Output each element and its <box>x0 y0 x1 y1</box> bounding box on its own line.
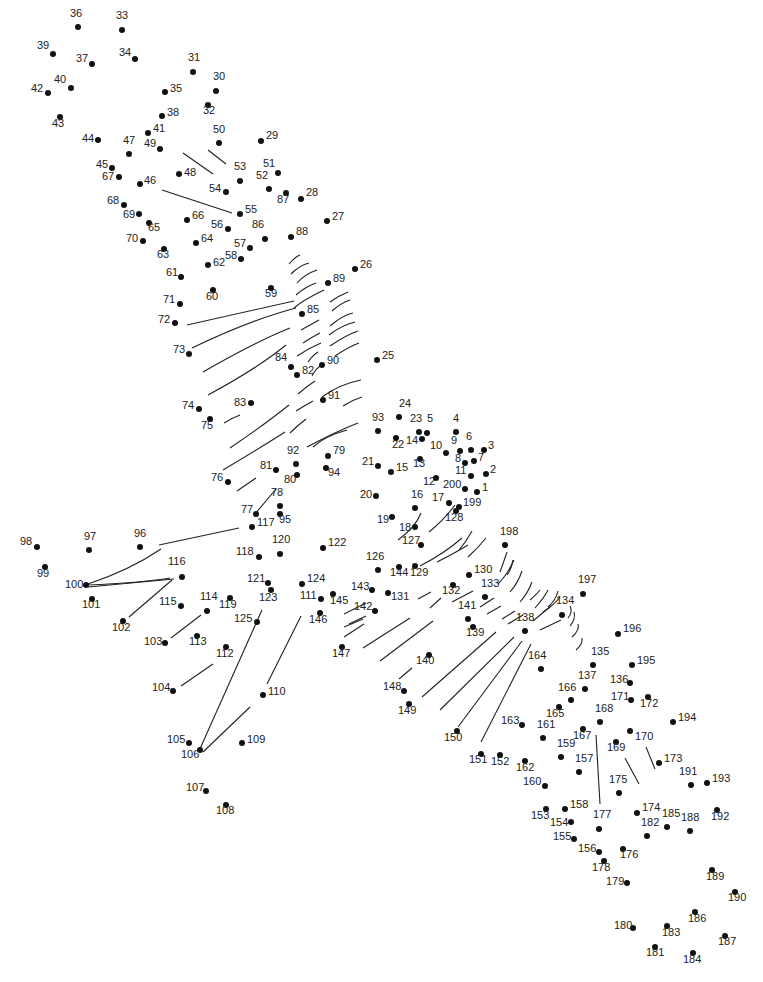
puzzle-dot[interactable] <box>320 545 326 551</box>
puzzle-dot[interactable] <box>627 728 633 734</box>
puzzle-dot[interactable] <box>205 262 211 268</box>
puzzle-dot[interactable] <box>293 461 299 467</box>
puzzle-dot[interactable] <box>457 448 463 454</box>
puzzle-dot[interactable] <box>256 554 262 560</box>
puzzle-dot[interactable] <box>186 740 192 746</box>
puzzle-dot[interactable] <box>482 594 488 600</box>
puzzle-dot[interactable] <box>223 189 229 195</box>
puzzle-dot[interactable] <box>580 591 586 597</box>
puzzle-dot[interactable] <box>519 722 525 728</box>
puzzle-dot[interactable] <box>375 463 381 469</box>
puzzle-dot[interactable] <box>616 790 622 796</box>
puzzle-dot[interactable] <box>89 61 95 67</box>
puzzle-dot[interactable] <box>687 828 693 834</box>
puzzle-dot[interactable] <box>238 256 244 262</box>
puzzle-dot[interactable] <box>157 146 163 152</box>
puzzle-dot[interactable] <box>596 849 602 855</box>
puzzle-dot[interactable] <box>184 217 190 223</box>
puzzle-dot[interactable] <box>615 631 621 637</box>
puzzle-dot[interactable] <box>474 489 480 495</box>
puzzle-dot[interactable] <box>172 320 178 326</box>
puzzle-dot[interactable] <box>86 547 92 553</box>
puzzle-dot[interactable] <box>75 24 81 30</box>
puzzle-dot[interactable] <box>95 137 101 143</box>
puzzle-dot[interactable] <box>162 640 168 646</box>
puzzle-dot[interactable] <box>177 301 183 307</box>
puzzle-dot[interactable] <box>424 430 430 436</box>
puzzle-dot[interactable] <box>225 226 231 232</box>
puzzle-dot[interactable] <box>670 719 676 725</box>
puzzle-dot[interactable] <box>373 493 379 499</box>
puzzle-dot[interactable] <box>446 500 452 506</box>
puzzle-dot[interactable] <box>483 471 489 477</box>
puzzle-dot[interactable] <box>582 686 588 692</box>
puzzle-dot[interactable] <box>389 514 395 520</box>
puzzle-dot[interactable] <box>634 810 640 816</box>
puzzle-dot[interactable] <box>456 504 462 510</box>
puzzle-dot[interactable] <box>540 735 546 741</box>
puzzle-dot[interactable] <box>140 238 146 244</box>
puzzle-dot[interactable] <box>471 458 477 464</box>
puzzle-dot[interactable] <box>320 397 326 403</box>
puzzle-dot[interactable] <box>324 218 330 224</box>
puzzle-dot[interactable] <box>369 587 375 593</box>
puzzle-dot[interactable] <box>190 69 196 75</box>
puzzle-dot[interactable] <box>288 234 294 240</box>
puzzle-dot[interactable] <box>443 450 449 456</box>
puzzle-dot[interactable] <box>396 414 402 420</box>
puzzle-dot[interactable] <box>239 740 245 746</box>
puzzle-dot[interactable] <box>265 580 271 586</box>
puzzle-dot[interactable] <box>294 372 300 378</box>
puzzle-dot[interactable] <box>664 824 670 830</box>
puzzle-dot[interactable] <box>258 138 264 144</box>
puzzle-dot[interactable] <box>145 130 151 136</box>
puzzle-dot[interactable] <box>273 467 279 473</box>
puzzle-dot[interactable] <box>249 524 255 530</box>
puzzle-dot[interactable] <box>412 505 418 511</box>
puzzle-dot[interactable] <box>137 544 143 550</box>
puzzle-dot[interactable] <box>562 806 568 812</box>
puzzle-dot[interactable] <box>325 453 331 459</box>
puzzle-dot[interactable] <box>502 542 508 548</box>
puzzle-dot[interactable] <box>225 479 231 485</box>
puzzle-dot[interactable] <box>119 27 125 33</box>
puzzle-dot[interactable] <box>170 688 176 694</box>
puzzle-dot[interactable] <box>644 833 650 839</box>
puzzle-dot[interactable] <box>468 447 474 453</box>
puzzle-dot[interactable] <box>162 89 168 95</box>
puzzle-dot[interactable] <box>462 486 468 492</box>
puzzle-dot[interactable] <box>186 351 192 357</box>
puzzle-dot[interactable] <box>298 196 304 202</box>
puzzle-dot[interactable] <box>568 697 574 703</box>
puzzle-dot[interactable] <box>401 688 407 694</box>
puzzle-dot[interactable] <box>325 280 331 286</box>
puzzle-dot[interactable] <box>116 174 122 180</box>
puzzle-dot[interactable] <box>196 406 202 412</box>
puzzle-dot[interactable] <box>45 90 51 96</box>
puzzle-dot[interactable] <box>277 551 283 557</box>
puzzle-dot[interactable] <box>254 619 260 625</box>
puzzle-dot[interactable] <box>213 88 219 94</box>
puzzle-dot[interactable] <box>571 836 577 842</box>
puzzle-dot[interactable] <box>558 754 564 760</box>
puzzle-dot[interactable] <box>193 240 199 246</box>
puzzle-dot[interactable] <box>597 719 603 725</box>
puzzle-dot[interactable] <box>590 662 596 668</box>
puzzle-dot[interactable] <box>34 544 40 550</box>
puzzle-dot[interactable] <box>374 357 380 363</box>
puzzle-dot[interactable] <box>318 596 324 602</box>
puzzle-dot[interactable] <box>596 826 602 832</box>
puzzle-dot[interactable] <box>262 236 268 242</box>
puzzle-dot[interactable] <box>375 567 381 573</box>
puzzle-dot[interactable] <box>83 582 89 588</box>
puzzle-dot[interactable] <box>419 436 425 442</box>
puzzle-dot[interactable] <box>176 171 182 177</box>
puzzle-dot[interactable] <box>178 603 184 609</box>
puzzle-dot[interactable] <box>299 581 305 587</box>
puzzle-dot[interactable] <box>288 364 294 370</box>
puzzle-dot[interactable] <box>299 311 305 317</box>
puzzle-dot[interactable] <box>465 616 471 622</box>
puzzle-dot[interactable] <box>137 181 143 187</box>
puzzle-dot[interactable] <box>576 769 582 775</box>
puzzle-dot[interactable] <box>216 140 222 146</box>
